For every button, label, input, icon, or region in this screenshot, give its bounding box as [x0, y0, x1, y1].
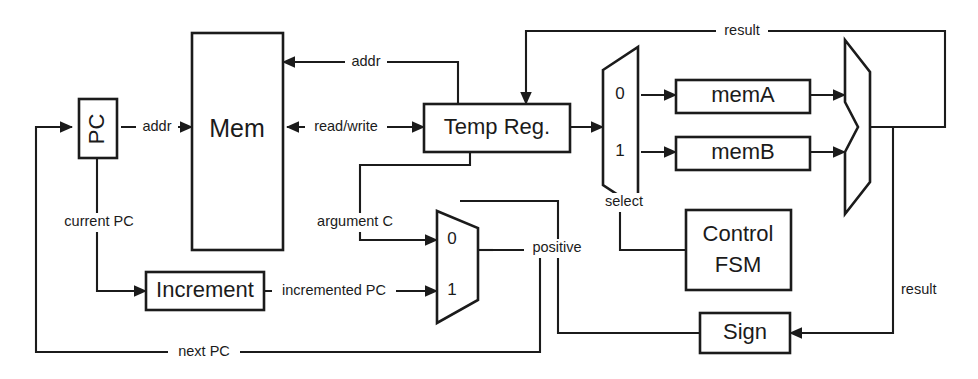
svg-text:incremented PC: incremented PC: [282, 282, 386, 298]
wire-positive: [460, 201, 700, 333]
label-addr-temp-to-mem: addr: [345, 53, 387, 72]
datapath-diagram: PC Mem Increment Temp Reg. memA memB: [0, 0, 978, 379]
block-mem-a[interactable]: memA: [676, 80, 810, 113]
block-mem-b[interactable]: memB: [676, 137, 810, 170]
label-result-right: result: [898, 281, 954, 300]
label-current-pc: current PC: [56, 213, 142, 232]
block-control-fsm[interactable]: Control FSM: [686, 210, 791, 290]
svg-text:result: result: [901, 281, 936, 297]
block-temp-reg-label: Temp Reg.: [444, 114, 550, 139]
block-increment[interactable]: Increment: [146, 272, 264, 310]
block-mem-a-label: memA: [711, 82, 775, 107]
wire-result-to-sign: [790, 190, 893, 333]
svg-text:addr: addr: [142, 118, 171, 134]
svg-text:addr: addr: [351, 53, 380, 69]
label-positive: positive: [524, 239, 590, 258]
block-mem[interactable]: Mem: [192, 33, 283, 250]
mux-pc[interactable]: 0 1: [437, 211, 478, 323]
mux-data[interactable]: 0 1: [603, 47, 638, 208]
svg-text:select: select: [605, 193, 643, 209]
label-addr-pc-to-mem: addr: [136, 117, 178, 136]
block-alu[interactable]: [845, 40, 870, 214]
mux-data-input-0-label: 0: [615, 84, 624, 103]
label-argument-c: argument C: [308, 213, 402, 232]
block-pc[interactable]: PC: [79, 99, 117, 158]
block-control-fsm-label-line1: Control: [703, 221, 774, 246]
svg-text:next PC: next PC: [178, 343, 230, 359]
svg-text:read/write: read/write: [314, 118, 378, 134]
svg-text:result: result: [724, 22, 759, 38]
block-mem-b-label: memB: [711, 139, 775, 164]
label-next-pc: next PC: [168, 343, 240, 362]
block-increment-label: Increment: [156, 277, 254, 302]
mux-pc-input-0-label: 0: [447, 229, 456, 248]
block-sign-label: Sign: [723, 319, 767, 344]
block-temp-reg[interactable]: Temp Reg.: [424, 104, 570, 152]
block-control-fsm-label-line2: FSM: [715, 252, 761, 277]
block-mem-label: Mem: [209, 114, 265, 142]
svg-text:positive: positive: [532, 239, 581, 255]
mux-data-input-1-label: 1: [615, 141, 624, 160]
label-select: select: [598, 193, 650, 212]
block-pc-label: PC: [84, 114, 109, 145]
label-result-top: result: [716, 22, 768, 41]
svg-text:argument C: argument C: [317, 213, 393, 229]
label-incremented-pc: incremented PC: [272, 282, 396, 301]
block-sign[interactable]: Sign: [700, 313, 790, 353]
datapath-canvas: PC Mem Increment Temp Reg. memA memB: [0, 0, 978, 379]
label-read-write: read/write: [305, 117, 387, 136]
svg-text:current PC: current PC: [64, 213, 133, 229]
mux-pc-input-1-label: 1: [447, 280, 456, 299]
